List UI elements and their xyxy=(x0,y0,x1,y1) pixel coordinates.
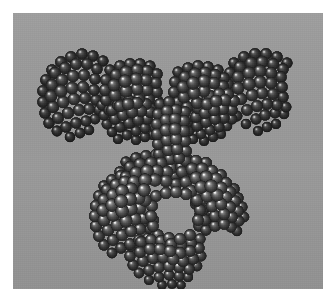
molecule-rendering-canvas xyxy=(13,13,323,289)
figure-root xyxy=(0,0,335,301)
molecule-image-panel xyxy=(13,13,323,289)
